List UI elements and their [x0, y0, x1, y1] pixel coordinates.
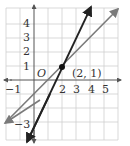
x-tick-neg1: −1 — [5, 83, 21, 96]
y-tick-1: 1 — [23, 60, 30, 73]
intersection-point — [59, 64, 65, 70]
coordinate-graph: 4 3 2 1 O (2, 1) −1 2 3 4 5 −3 — [0, 0, 130, 146]
x-tick-2: 2 — [59, 83, 66, 96]
y-tick-4: 4 — [23, 17, 30, 30]
y-tick-2: 2 — [23, 45, 30, 58]
x-tick-4: 4 — [88, 83, 95, 96]
y-tick-neg3: −3 — [14, 118, 30, 131]
point-label: (2, 1) — [72, 67, 102, 80]
x-tick-3: 3 — [73, 83, 80, 96]
x-tick-5: 5 — [102, 83, 109, 96]
origin-label: O — [37, 67, 46, 80]
y-tick-3: 3 — [23, 31, 30, 44]
